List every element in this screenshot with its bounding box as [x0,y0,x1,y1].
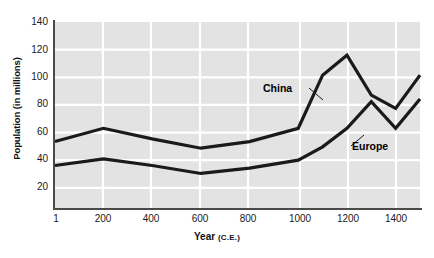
series-label-china: China [263,82,292,94]
x-tick-label-1200: 1200 [323,213,373,224]
y-tick-label-80: 80 [6,98,48,109]
y-tick-label-140: 140 [6,16,48,27]
population-line-chart: Population (in millions) 140 120 100 80 … [0,0,434,258]
x-tick-label-800: 800 [223,213,273,224]
x-tick-label-400: 400 [126,213,176,224]
plot-area [55,22,420,208]
y-axis-line [53,20,55,210]
series-line-china [55,55,420,148]
x-tick-label-1: 1 [31,213,81,224]
x-tick-label-1400: 1400 [371,213,421,224]
y-tick-label-60: 60 [6,126,48,137]
x-tick-label-1000: 1000 [275,213,325,224]
x-axis-title-main: Year [194,231,215,242]
y-tick-label-120: 120 [6,44,48,55]
x-axis-title: Year (C.E.) [0,231,434,242]
x-axis-title-era: (C.E.) [218,233,240,242]
cropped-title-remnant [0,0,434,5]
y-tick-label-100: 100 [6,71,48,82]
y-tick-label-20: 20 [6,181,48,192]
data-series-layer [55,22,420,208]
y-tick-label-40: 40 [6,153,48,164]
series-label-europe: Europe [352,140,388,152]
x-tick-label-200: 200 [78,213,128,224]
x-tick-label-600: 600 [175,213,225,224]
x-axis-line [53,208,422,210]
series-line-europe [55,99,420,173]
